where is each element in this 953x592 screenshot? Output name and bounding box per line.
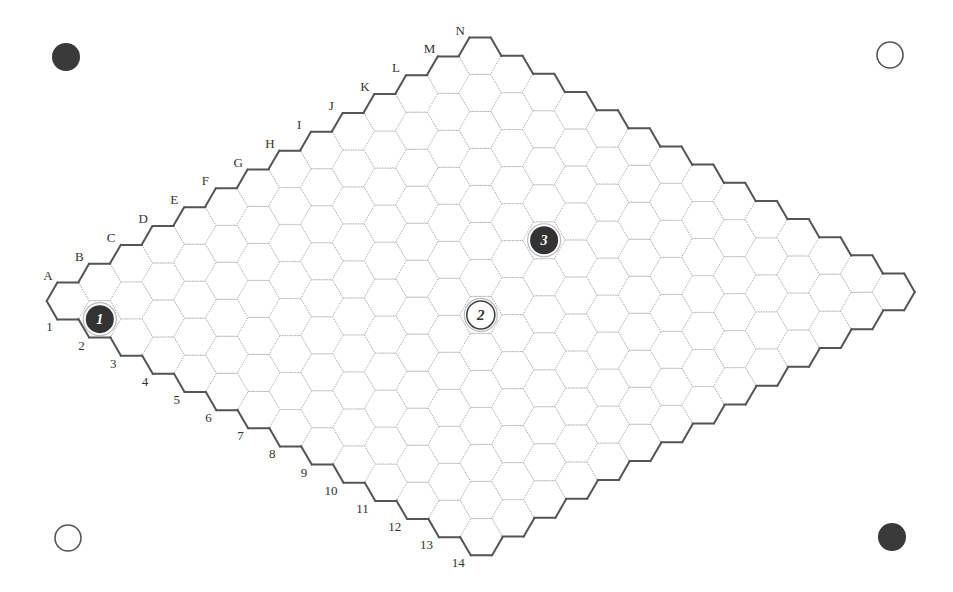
row-label: 5 <box>174 392 181 407</box>
move-number: 3 <box>540 233 548 248</box>
row-label: 9 <box>301 465 308 480</box>
column-label: B <box>75 249 84 264</box>
board-cells <box>47 38 915 556</box>
column-label: E <box>170 192 178 207</box>
hex-board: ABCDEFGHIJKLMN1234567891011121314 123 <box>0 0 953 592</box>
row-label: 13 <box>420 537 433 552</box>
column-label: N <box>455 23 465 38</box>
row-label: 10 <box>325 483 338 498</box>
column-label: L <box>392 60 400 75</box>
corner-marker-top-right-white-icon <box>877 42 903 68</box>
stone-black-move-1: 1 <box>83 303 116 336</box>
corner-marker-bottom-right-black-icon <box>878 523 906 551</box>
column-label: A <box>43 268 53 283</box>
column-label: I <box>297 117 301 132</box>
column-label: J <box>329 98 334 113</box>
corner-marker-top-left-black-icon <box>52 43 80 71</box>
row-label: 6 <box>205 410 212 425</box>
row-label: 4 <box>142 374 149 389</box>
row-label: 14 <box>452 555 466 570</box>
column-label: D <box>138 211 147 226</box>
column-label: F <box>202 173 209 188</box>
row-label: 3 <box>110 356 117 371</box>
corner-marker-bottom-left-white-icon <box>55 525 81 551</box>
column-label: G <box>234 155 243 170</box>
row-label: 1 <box>46 319 53 334</box>
row-label: 7 <box>237 428 244 443</box>
stone-white-move-2: 2 <box>464 298 497 331</box>
column-label: H <box>265 136 274 151</box>
row-label: 11 <box>356 501 369 516</box>
row-label: 12 <box>388 519 401 534</box>
column-label: C <box>107 230 116 245</box>
column-label: M <box>424 41 436 56</box>
column-label: K <box>360 79 370 94</box>
move-number: 1 <box>96 312 103 327</box>
row-label: 2 <box>78 338 85 353</box>
stone-black-move-3: 3 <box>528 224 561 257</box>
row-label: 8 <box>269 446 276 461</box>
move-number: 2 <box>476 307 485 323</box>
